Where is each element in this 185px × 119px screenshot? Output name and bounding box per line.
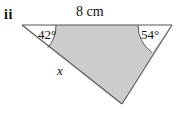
right-angle-label: 54°	[141, 28, 159, 41]
left-angle-label: 42°	[38, 28, 56, 41]
top-side-length-label: 8 cm	[76, 5, 104, 19]
geometry-figure: ii 8 cm 42° 54° x	[0, 0, 185, 119]
unknown-side-label: x	[57, 64, 63, 77]
part-label: ii	[4, 8, 13, 22]
